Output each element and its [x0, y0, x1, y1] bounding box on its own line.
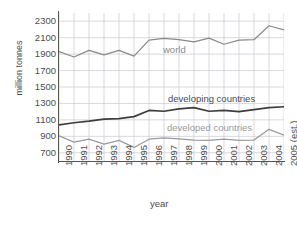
x-tick-label: 1995 [138, 145, 149, 166]
x-tick-label: 1996 [153, 145, 164, 166]
x-axis-title: year [150, 198, 168, 209]
x-tick-label: 1999 [198, 145, 209, 166]
x-tick-label: 1997 [168, 145, 179, 166]
line-chart: million tonnes 2300210019001700150013001… [0, 0, 297, 229]
x-tick-label: 2005 (est.) [288, 121, 297, 166]
x-tick-label: 2003 [258, 145, 269, 166]
x-tick-label: 2000 [213, 145, 224, 166]
series-label-developing-countries: developing countries [168, 93, 255, 104]
series-label-world: world [163, 44, 186, 55]
x-tick-label: 1998 [183, 145, 194, 166]
series-label-developed-countries: developed countries [167, 122, 252, 133]
x-tick-label: 1991 [78, 145, 89, 166]
x-tick-label: 1990 [63, 145, 74, 166]
x-tick-label: 2001 [228, 145, 239, 166]
x-tick-label: 1994 [123, 145, 134, 166]
x-axis-tick-labels: 1990199119921993199419951996199719981999… [0, 0, 297, 229]
x-tick-label: 2004 [273, 145, 284, 166]
x-tick-label: 2002 [243, 145, 254, 166]
x-tick-label: 1993 [108, 145, 119, 166]
x-tick-label: 1992 [93, 145, 104, 166]
